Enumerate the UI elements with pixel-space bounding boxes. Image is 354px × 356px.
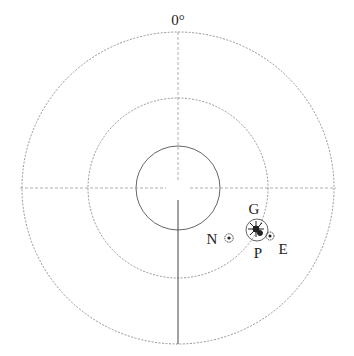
marker-g <box>246 219 268 241</box>
label-n: N <box>207 231 218 247</box>
cluster-icon <box>248 221 264 237</box>
label-p: P <box>254 245 262 261</box>
label-e: E <box>278 241 287 257</box>
label-g: G <box>249 201 260 217</box>
polar-diagram: 0° G N E P <box>0 0 354 356</box>
marker-n <box>225 234 233 242</box>
zero-degree-label: 0° <box>171 12 185 28</box>
